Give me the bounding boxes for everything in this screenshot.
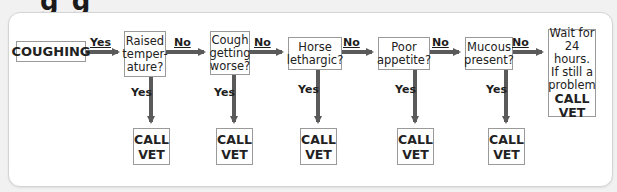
edge-label-no: No: [512, 36, 529, 49]
edge-label-yes: Yes: [214, 86, 235, 99]
decision-raised-temperature: Raised temper- ature?: [124, 31, 166, 77]
outcome-call-vet: CALL VET: [397, 128, 434, 165]
outcome-call-vet: CALL VET: [300, 128, 337, 165]
decision-cough-getting-worse: Cough getting worse?: [210, 31, 250, 75]
decision-mucous-present: Mucous present?: [465, 37, 513, 70]
final-wait-node: Wait for 24 hours. If still a problem CA…: [548, 29, 596, 117]
start-node: COUGHING: [16, 41, 86, 62]
edge-label-no: No: [254, 36, 271, 49]
decision-poor-appetite: Poor appetite?: [378, 37, 430, 70]
edge-label-yes: Yes: [486, 83, 507, 96]
outcome-call-vet: CALL VET: [488, 128, 525, 165]
edge-label-yes: Yes: [298, 83, 319, 96]
edge-label-no: No: [174, 36, 191, 49]
edge-label-yes: Yes: [131, 86, 152, 99]
decision-horse-lethargic: Horse lethargic?: [288, 37, 342, 70]
outcome-call-vet: CALL VET: [216, 128, 253, 165]
outcome-call-vet: CALL VET: [133, 128, 170, 165]
final-call-vet: CALL VET: [555, 92, 590, 120]
edge-label-no: No: [343, 36, 360, 49]
final-wait-text: Wait for 24 hours. If still a problem: [548, 27, 596, 92]
edge-label-yes: Yes: [395, 83, 416, 96]
edge-label-yes: Yes: [90, 36, 111, 49]
edge-label-no: No: [432, 36, 449, 49]
